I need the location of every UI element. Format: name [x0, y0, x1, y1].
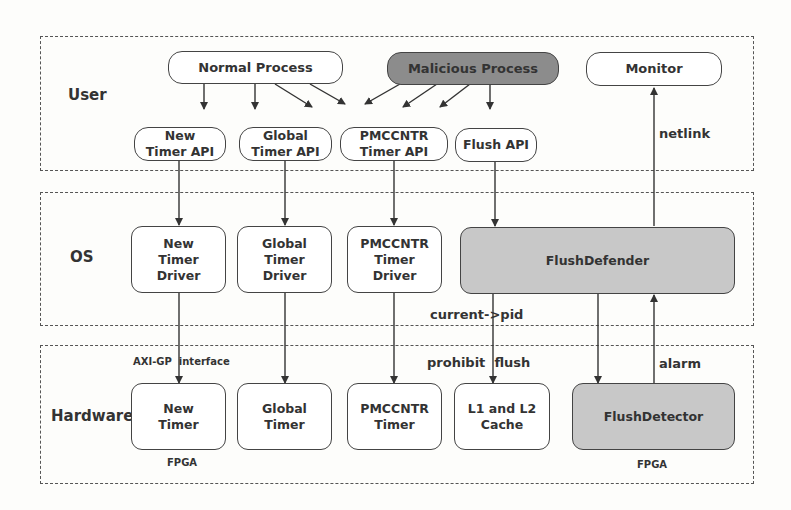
normal-process-node: Normal Process: [168, 51, 343, 84]
user-layer-label: User: [68, 86, 107, 104]
pmccntr-timer-api-node: PMCCNTR Timer API: [340, 127, 448, 161]
netlink-label: netlink: [659, 126, 710, 141]
flush-defender-node: FlushDefender: [460, 227, 735, 294]
pmccntr-timer-node: PMCCNTR Timer: [347, 383, 442, 450]
os-layer-label: OS: [70, 248, 94, 266]
global-timer-api-node: Global Timer API: [239, 127, 332, 161]
current-pid-label: current->pid: [430, 307, 523, 322]
flush-api-node: Flush API: [455, 128, 537, 162]
hardware-layer-label: Hardware: [51, 407, 133, 425]
alarm-label: alarm: [659, 356, 701, 371]
fpga-label-new-timer: FPGA: [167, 457, 197, 468]
l1-l2-cache-node: L1 and L2 Cache: [454, 383, 550, 450]
new-timer-driver-node: New Timer Driver: [131, 226, 226, 293]
pmccntr-timer-driver-node: PMCCNTR Timer Driver: [347, 226, 442, 293]
fpga-label-flush-detector: FPGA: [637, 459, 667, 470]
global-timer-node: Global Timer: [237, 383, 332, 450]
axi-gp-interface-label: AXI-GP interface: [133, 356, 230, 367]
monitor-node: Monitor: [586, 52, 722, 86]
prohibit-flush-label: prohibit flush: [427, 355, 530, 370]
new-timer-node: New Timer: [131, 383, 226, 450]
malicious-process-node: Malicious Process: [387, 52, 559, 85]
global-timer-driver-node: Global Timer Driver: [237, 226, 332, 293]
new-timer-api-node: New Timer API: [134, 127, 226, 161]
flush-detector-node: FlushDetector: [572, 383, 735, 450]
